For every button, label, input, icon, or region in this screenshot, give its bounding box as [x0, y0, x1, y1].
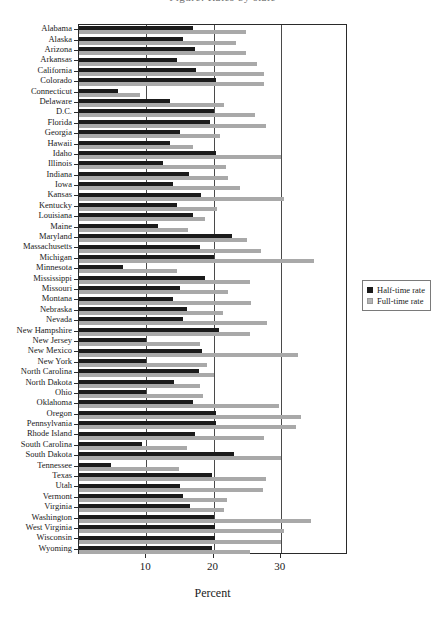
- y-axis-label: Oklahoma: [37, 398, 72, 407]
- bar-full-time: [79, 280, 250, 284]
- y-axis-label: Missouri: [42, 284, 72, 293]
- y-axis-label: North Carolina: [21, 367, 72, 376]
- x-tick-label-20: 20: [207, 560, 218, 572]
- bar-full-time: [79, 519, 311, 523]
- bar-full-time: [79, 134, 220, 138]
- y-axis-label: Louisiana: [38, 211, 72, 220]
- legend-swatch-icon: [367, 287, 373, 293]
- bar-row: [79, 264, 346, 274]
- bar-row: [79, 295, 346, 305]
- bar-row: [79, 451, 346, 461]
- bar-full-time: [79, 259, 314, 263]
- x-tick-30: [280, 554, 281, 558]
- bar-full-time: [79, 488, 263, 492]
- bar-row: [79, 306, 346, 316]
- bar-full-time: [79, 353, 298, 357]
- bar-row: [79, 139, 346, 149]
- bar-row: [79, 389, 346, 399]
- y-axis-label: Montana: [42, 294, 72, 303]
- bar-full-time: [79, 269, 177, 273]
- bar-full-time: [79, 529, 284, 533]
- bar-full-time: [79, 249, 261, 253]
- y-axis-label: California: [38, 66, 72, 75]
- y-axis-label: New York: [38, 357, 72, 366]
- y-axis-label: Maine: [50, 222, 72, 231]
- bar-row: [79, 108, 346, 118]
- legend-entry-full-time: Full-time rate: [367, 296, 425, 306]
- y-axis-label: Florida: [47, 118, 72, 127]
- bar-full-time: [79, 155, 281, 159]
- bar-rows: [79, 25, 346, 553]
- y-axis-label: Illinois: [48, 159, 72, 168]
- y-axis-label: Wisconsin: [36, 533, 72, 542]
- bar-full-time: [79, 228, 188, 232]
- bar-full-time: [79, 477, 266, 481]
- y-axis-label: Hawaii: [47, 139, 72, 148]
- y-axis-label: North Dakota: [25, 378, 72, 387]
- legend-label: Full-time rate: [377, 296, 424, 306]
- bar-row: [79, 441, 346, 451]
- bar-row: [79, 326, 346, 336]
- x-axis-tick-labels: 102030: [78, 560, 347, 576]
- bar-full-time: [79, 290, 228, 294]
- bar-full-time: [79, 217, 205, 221]
- bar-row: [79, 77, 346, 87]
- y-axis-label: Utah: [55, 481, 72, 490]
- bar-row: [79, 212, 346, 222]
- bar-full-time: [79, 384, 200, 388]
- y-axis-label: Michigan: [39, 253, 72, 262]
- y-axis-label: Iowa: [55, 180, 72, 189]
- bar-row: [79, 410, 346, 420]
- bar-full-time: [79, 238, 247, 242]
- y-axis-label: New Jersey: [33, 336, 72, 345]
- y-axis-label: Vermont: [43, 492, 72, 501]
- bar-row: [79, 274, 346, 284]
- bar-row: [79, 493, 346, 503]
- bar-full-time: [79, 103, 224, 107]
- y-axis-label: Wyoming: [39, 544, 73, 553]
- bar-row: [79, 316, 346, 326]
- bar-full-time: [79, 41, 236, 45]
- y-axis-label: New Mexico: [28, 346, 72, 355]
- y-axis-label: Alaska: [48, 35, 72, 44]
- bar-row: [79, 191, 346, 201]
- legend-entry-half-time: Half-time rate: [367, 285, 425, 295]
- bar-full-time: [79, 425, 296, 429]
- y-axis-label: Rhode Island: [27, 429, 72, 438]
- bar-full-time: [79, 404, 279, 408]
- bar-row: [79, 347, 346, 357]
- plot-area: [78, 24, 347, 554]
- y-axis-label: Massachusetts: [23, 242, 72, 251]
- y-axis-label: Indiana: [47, 170, 73, 179]
- x-axis-title: Percent: [78, 586, 347, 601]
- y-axis-label: Texas: [52, 471, 72, 480]
- legend-swatch-icon: [367, 298, 373, 304]
- y-axis-labels: AlabamaAlaskaArizonaArkansasCaliforniaCo…: [0, 24, 76, 554]
- bar-full-time: [79, 332, 250, 336]
- y-axis-label: Minnesota: [36, 263, 72, 272]
- bar-full-time: [79, 436, 264, 440]
- bar-row: [79, 472, 346, 482]
- bar-full-time: [79, 186, 240, 190]
- bar-full-time: [79, 373, 214, 377]
- x-tick-label-10: 10: [140, 560, 151, 572]
- bar-row: [79, 482, 346, 492]
- y-axis-label: West Virginia: [26, 523, 72, 532]
- y-axis-label: Maryland: [39, 232, 72, 241]
- bar-full-time: [79, 197, 284, 201]
- bar-row: [79, 534, 346, 544]
- bar-full-time: [79, 301, 251, 305]
- bar-full-time: [79, 467, 179, 471]
- y-axis-label: South Dakota: [25, 450, 72, 459]
- x-tick-10: [145, 554, 146, 558]
- bar-row: [79, 243, 346, 253]
- bar-full-time: [79, 51, 246, 55]
- bar-row: [79, 46, 346, 56]
- bar-full-time: [79, 207, 217, 211]
- y-axis-label: Nebraska: [40, 305, 72, 314]
- bar-row: [79, 202, 346, 212]
- bar-full-time: [79, 82, 264, 86]
- y-axis-label: Connecticut: [31, 87, 72, 96]
- y-axis-label: Pennsylvania: [27, 419, 72, 428]
- y-axis-label: South Carolina: [21, 440, 72, 449]
